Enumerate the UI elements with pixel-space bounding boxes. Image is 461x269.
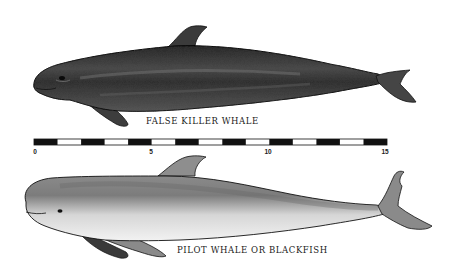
scale-label-0: 0 bbox=[33, 148, 37, 155]
false-killer-eye bbox=[59, 76, 65, 80]
scale-label-5: 5 bbox=[149, 148, 153, 155]
pilot-whale-caption: PILOT WHALE OR BLACKFISH bbox=[177, 245, 328, 255]
pilot-dorsal-fin bbox=[158, 156, 206, 176]
pilot-whale bbox=[25, 156, 432, 258]
scale-label-15: 15 bbox=[381, 148, 388, 155]
false-killer-whale bbox=[34, 26, 416, 126]
scale-label-10: 10 bbox=[264, 148, 271, 155]
pilot-eye bbox=[58, 209, 63, 213]
scale-bar bbox=[34, 139, 387, 145]
false-killer-tail-fluke bbox=[376, 70, 416, 102]
false-killer-whale-caption: FALSE KILLER WHALE bbox=[146, 116, 259, 126]
pilot-tail-fluke bbox=[378, 171, 432, 229]
whale-illustration: FALSE KILLER WHALE 0 5 10 15 PILOT WHALE… bbox=[0, 0, 461, 269]
false-killer-dorsal-fin bbox=[168, 26, 207, 47]
